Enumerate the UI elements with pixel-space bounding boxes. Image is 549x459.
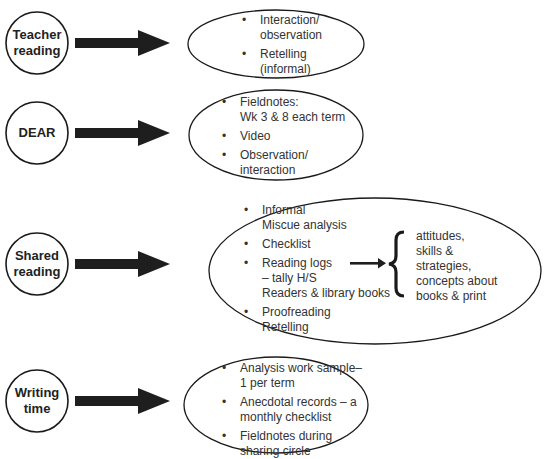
activity-label-dear: DEAR xyxy=(6,125,68,141)
list-item: InformalMiscue analysis xyxy=(240,203,400,233)
item-line: – tally H/S xyxy=(262,271,400,286)
item-line: Fieldnotes: xyxy=(240,95,368,110)
list-item: Fieldnotes duringsharing circle xyxy=(218,429,388,459)
label-line: reading xyxy=(6,43,68,59)
item-line: Video xyxy=(240,129,368,144)
label-line: time xyxy=(6,401,68,417)
label-line: reading xyxy=(6,264,68,280)
item-line: interaction xyxy=(240,163,368,178)
item-line: (informal) xyxy=(260,62,368,77)
label-line: Shared xyxy=(6,248,68,264)
methods-list-teacher-reading: Interaction/observation Retelling(inform… xyxy=(238,13,368,81)
activity-label-shared-reading: Shared reading xyxy=(6,248,68,280)
item-line: Analysis work sample– xyxy=(240,361,388,376)
item-line: Checklist xyxy=(262,237,400,252)
list-item: Checklist xyxy=(240,237,400,252)
activity-label-teacher-reading: Teacher reading xyxy=(6,27,68,59)
outcome-line: concepts about xyxy=(416,274,526,289)
outcome-line: skills & xyxy=(416,244,526,259)
label-line: Teacher xyxy=(6,27,68,43)
outcomes-text: attitudes, skills & strategies, concepts… xyxy=(416,229,526,304)
methods-list-shared-reading: InformalMiscue analysis Checklist Readin… xyxy=(240,203,400,339)
item-line: Anecdotal records – a xyxy=(240,395,388,410)
outcome-line: attitudes, xyxy=(416,229,526,244)
item-line: Observation/ xyxy=(240,148,368,163)
list-item: Observation/interaction xyxy=(218,148,368,178)
item-line: Proofreading xyxy=(262,305,400,320)
item-line: Reading logs xyxy=(262,256,400,271)
activity-label-writing-time: Writing time xyxy=(6,385,68,417)
item-line: Interaction/ xyxy=(260,13,368,28)
item-line: Informal xyxy=(262,203,400,218)
arrow-icon xyxy=(75,30,170,414)
label-line: Writing xyxy=(6,385,68,401)
item-line: Retelling xyxy=(260,47,368,62)
methods-list-dear: Fieldnotes:Wk 3 & 8 each term Video Obse… xyxy=(218,95,368,182)
methods-list-writing-time: Analysis work sample–1 per term Anecdota… xyxy=(218,361,388,459)
list-item: Reading logs– tally H/SReaders & library… xyxy=(240,256,400,301)
label-line: DEAR xyxy=(6,125,68,141)
item-line: sharing circle xyxy=(240,444,388,459)
item-line: Retelling xyxy=(262,320,400,335)
item-line: Miscue analysis xyxy=(262,218,400,233)
outcome-line: strategies, xyxy=(416,259,526,274)
list-item: Fieldnotes:Wk 3 & 8 each term xyxy=(218,95,368,125)
item-line: Readers & library books xyxy=(262,286,400,301)
item-line: Wk 3 & 8 each term xyxy=(240,110,368,125)
outcome-line: books & print xyxy=(416,289,526,304)
list-item: Analysis work sample–1 per term xyxy=(218,361,388,391)
list-item: Anecdotal records – amonthly checklist xyxy=(218,395,388,425)
list-item: Video xyxy=(218,129,368,144)
item-line: observation xyxy=(260,28,368,43)
list-item: Retelling(informal) xyxy=(238,47,368,77)
list-item: Interaction/observation xyxy=(238,13,368,43)
list-item: ProofreadingRetelling xyxy=(240,305,400,335)
item-line: Fieldnotes during xyxy=(240,429,388,444)
item-line: 1 per term xyxy=(240,376,388,391)
item-line: monthly checklist xyxy=(240,410,388,425)
